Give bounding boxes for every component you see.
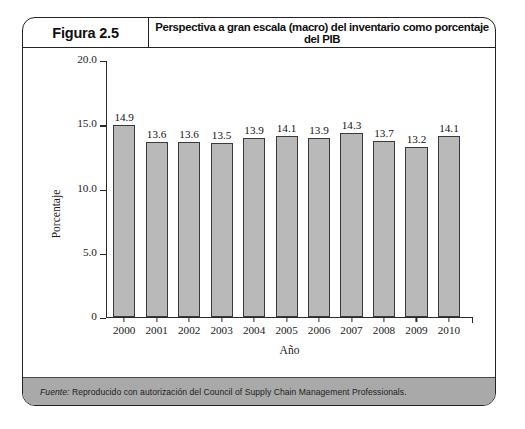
bar-item: 14.92000 bbox=[113, 60, 135, 317]
bar-item: 13.72008 bbox=[373, 60, 395, 317]
x-tick-label: 2004 bbox=[243, 324, 265, 336]
x-tick-mark bbox=[189, 317, 190, 322]
figure-title: Perspectiva a gran escala (macro) del in… bbox=[149, 18, 495, 47]
figure-number-label: Figura 2.5 bbox=[23, 18, 149, 47]
bar-item: 13.22009 bbox=[405, 60, 427, 317]
bar-value-label: 14.9 bbox=[114, 111, 134, 123]
bar-value-label: 13.5 bbox=[212, 129, 232, 141]
chart-canvas: Porcentaje 05.010.015.020.0 14.9200013.6… bbox=[23, 48, 496, 377]
bar-value-label: 14.3 bbox=[342, 119, 362, 131]
bar-series: 14.9200013.6200113.6200213.5200313.92004… bbox=[106, 60, 473, 317]
source-label: Fuente: bbox=[40, 387, 70, 397]
plot-area: 05.010.015.020.0 14.9200013.6200113.6200… bbox=[106, 61, 473, 318]
x-tick-label: 2005 bbox=[275, 324, 297, 336]
figure-header: Figura 2.5 Perspectiva a gran escala (ma… bbox=[23, 18, 495, 48]
x-tick-label: 2010 bbox=[438, 324, 460, 336]
source-note: Fuente: Reproducido con autorización del… bbox=[40, 387, 407, 397]
bar-rect bbox=[276, 136, 298, 317]
x-tick-mark bbox=[448, 317, 449, 322]
bar-item: 13.52003 bbox=[211, 60, 233, 317]
x-tick-mark bbox=[253, 317, 254, 322]
bar-rect bbox=[405, 147, 427, 317]
bar-item: 14.32007 bbox=[340, 60, 362, 317]
y-tick-label: 0 bbox=[91, 310, 97, 322]
bar-value-label: 13.6 bbox=[179, 128, 199, 140]
bar-item: 13.62001 bbox=[146, 60, 168, 317]
source-body: Reproducido con autorización del Council… bbox=[70, 387, 407, 397]
x-tick-label: 2003 bbox=[210, 324, 232, 336]
y-tick-label: 15.0 bbox=[77, 117, 97, 129]
x-tick-label: 2007 bbox=[340, 324, 362, 336]
x-tick-mark bbox=[286, 317, 287, 322]
y-tick-mark bbox=[100, 318, 106, 319]
x-tick-mark bbox=[156, 317, 157, 322]
x-tick-label: 2006 bbox=[308, 324, 330, 336]
x-axis-line bbox=[106, 317, 473, 318]
y-tick-label: 10.0 bbox=[77, 182, 97, 194]
bar-value-label: 13.9 bbox=[244, 124, 264, 136]
bar-rect bbox=[373, 141, 395, 317]
figure-container: Figura 2.5 Perspectiva a gran escala (ma… bbox=[22, 17, 496, 406]
x-axis-title: Año bbox=[106, 344, 473, 356]
bar-item: 13.92006 bbox=[308, 60, 330, 317]
y-axis-title: Porcentaje bbox=[50, 169, 62, 259]
x-tick-mark bbox=[221, 317, 222, 322]
bar-rect bbox=[178, 142, 200, 317]
x-tick-label: 2008 bbox=[373, 324, 395, 336]
bar-value-label: 14.1 bbox=[277, 122, 297, 134]
bar-value-label: 13.9 bbox=[309, 124, 329, 136]
bar-rect bbox=[211, 143, 233, 316]
y-tick-label: 20.0 bbox=[77, 53, 97, 65]
x-axis-end-tick bbox=[472, 318, 473, 323]
x-tick-mark bbox=[351, 317, 352, 322]
bar-rect bbox=[308, 138, 330, 317]
bar-rect bbox=[113, 125, 135, 316]
bar-rect bbox=[438, 136, 460, 317]
x-tick-mark bbox=[416, 317, 417, 322]
bar-item: 14.12010 bbox=[438, 60, 460, 317]
bar-item: 13.62002 bbox=[178, 60, 200, 317]
y-tick-label: 5.0 bbox=[83, 246, 97, 258]
x-tick-mark bbox=[124, 317, 125, 322]
bar-value-label: 13.2 bbox=[407, 133, 427, 145]
x-tick-label: 2009 bbox=[405, 324, 427, 336]
bar-value-label: 13.6 bbox=[147, 128, 167, 140]
source-band: Fuente: Reproducido con autorización del… bbox=[23, 377, 495, 405]
bar-value-label: 13.7 bbox=[374, 127, 394, 139]
bar-item: 14.12005 bbox=[276, 60, 298, 317]
bar-rect bbox=[340, 133, 362, 317]
x-tick-label: 2000 bbox=[113, 324, 135, 336]
x-tick-label: 2001 bbox=[145, 324, 167, 336]
x-tick-mark bbox=[318, 317, 319, 322]
bar-rect bbox=[146, 142, 168, 317]
bar-item: 13.92004 bbox=[243, 60, 265, 317]
bar-value-label: 14.1 bbox=[439, 122, 459, 134]
bar-rect bbox=[243, 138, 265, 317]
x-tick-mark bbox=[383, 317, 384, 322]
x-tick-label: 2002 bbox=[178, 324, 200, 336]
